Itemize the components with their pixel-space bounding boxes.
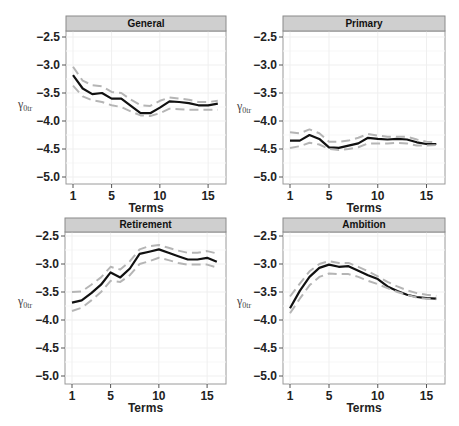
x-axis-title: Terms xyxy=(128,201,163,215)
facet-title: Ambition xyxy=(342,219,385,230)
x-tick-label: 5 xyxy=(107,389,114,403)
y-tick-label: −5.0 xyxy=(253,170,277,184)
x-tick-label: 5 xyxy=(108,189,115,203)
y-tick-label: −5.0 xyxy=(35,369,59,383)
x-axis-title: Terms xyxy=(346,401,381,415)
x-tick-label: 1 xyxy=(287,189,294,203)
y-tick-label: −3.0 xyxy=(253,257,277,271)
y-tick-label: −4.0 xyxy=(253,114,277,128)
y-axis-title: γ0tr xyxy=(17,294,33,310)
y-tick-label: −4.5 xyxy=(36,142,60,156)
y-tick-label: −5.0 xyxy=(36,170,60,184)
y-tick-label: −4.0 xyxy=(35,313,59,327)
y-tick-label: −4.5 xyxy=(253,341,277,355)
y-tick-label: −4.5 xyxy=(253,142,277,156)
x-tick-label: 15 xyxy=(201,189,215,203)
y-tick-label: −4.0 xyxy=(36,114,60,128)
y-tick-label: −4.0 xyxy=(253,313,277,327)
facet-title: Retirement xyxy=(119,219,172,230)
panel-general: General−2.5−3.0−3.5−4.0−4.5−5.0151015Ter… xyxy=(17,16,226,215)
y-tick-label: −2.5 xyxy=(253,30,277,44)
y-tick-label: −2.5 xyxy=(35,229,59,243)
y-tick-label: −3.5 xyxy=(253,86,277,100)
y-tick-label: −3.0 xyxy=(36,58,60,72)
y-tick-label: −2.5 xyxy=(36,30,60,44)
plot-area xyxy=(65,232,226,384)
y-tick-label: −3.5 xyxy=(36,86,60,100)
x-axis-title: Terms xyxy=(346,201,381,215)
y-tick-label: −5.0 xyxy=(253,369,277,383)
x-tick-label: 1 xyxy=(287,389,294,403)
facet-title: Primary xyxy=(345,18,383,29)
y-axis-title: γ0tr xyxy=(236,294,252,310)
y-axis-title: γ0tr xyxy=(236,99,252,115)
chart-canvas: General−2.5−3.0−3.5−4.0−4.5−5.0151015Ter… xyxy=(0,0,459,426)
y-tick-label: −3.0 xyxy=(253,58,277,72)
facet-title: General xyxy=(127,18,164,29)
y-tick-label: −3.5 xyxy=(253,285,277,299)
x-tick-label: 15 xyxy=(200,389,214,403)
plot-area xyxy=(283,232,445,384)
y-tick-label: −3.5 xyxy=(35,285,59,299)
x-tick-label: 5 xyxy=(326,389,333,403)
x-axis-title: Terms xyxy=(128,401,163,415)
x-tick-label: 15 xyxy=(420,389,434,403)
panel-retirement: Retirement−2.5−3.0−3.5−4.0−4.5−5.0151015… xyxy=(17,218,226,415)
x-tick-label: 1 xyxy=(70,189,77,203)
y-tick-label: −4.5 xyxy=(35,341,59,355)
x-tick-label: 5 xyxy=(326,189,333,203)
y-axis-title: γ0tr xyxy=(17,97,33,113)
panel-ambition: Ambition−2.5−3.0−3.5−4.0−4.5−5.0151015Te… xyxy=(236,218,445,415)
y-tick-label: −2.5 xyxy=(253,229,277,243)
x-tick-label: 1 xyxy=(69,389,76,403)
x-tick-label: 15 xyxy=(420,189,434,203)
faceted-line-chart: General−2.5−3.0−3.5−4.0−4.5−5.0151015Ter… xyxy=(0,0,459,426)
panel-primary: Primary−2.5−3.0−3.5−4.0−4.5−5.0151015Ter… xyxy=(236,16,445,215)
y-tick-label: −3.0 xyxy=(35,257,59,271)
